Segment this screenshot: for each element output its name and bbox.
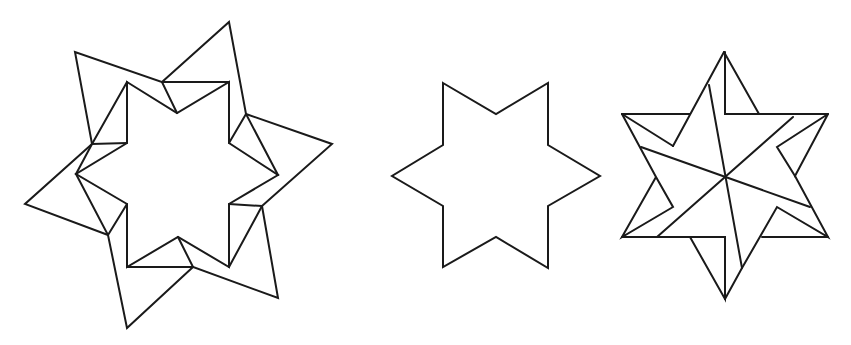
figure-middle-star	[392, 83, 600, 268]
middle-star-outline	[392, 83, 600, 268]
left-flap-left	[25, 144, 108, 235]
right-top-point-left	[673, 52, 724, 146]
left-flap-top-right	[162, 22, 278, 175]
left-flap-left-2	[108, 204, 127, 235]
left-flap-right-2	[229, 114, 246, 143]
left-flap-top-diag	[92, 82, 127, 144]
right-bottom-edge-left	[622, 237, 725, 299]
left-flap-right	[229, 114, 332, 206]
left-flap-bottom-right-2	[229, 206, 262, 267]
left-inner-star	[76, 82, 278, 267]
right-diagonal-3	[657, 117, 793, 237]
diagram-canvas	[0, 0, 851, 345]
figure-right-star	[622, 52, 828, 299]
left-flap-bottom-left	[76, 174, 193, 328]
figure-left-star	[25, 22, 332, 328]
right-top-point-right	[724, 52, 828, 114]
right-left-upper-side	[622, 114, 673, 237]
